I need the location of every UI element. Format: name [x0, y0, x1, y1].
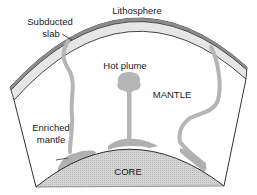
hot-plume-label: Hot plume: [103, 60, 146, 71]
earth-cross-section-diagram: Lithosphere Subducted slab Hot plume MAN…: [0, 0, 257, 195]
core-label: CORE: [114, 166, 141, 177]
right-wall-line: [224, 79, 246, 186]
lithosphere-label: Lithosphere: [112, 5, 162, 16]
subducted-slab-right: [179, 47, 219, 164]
left-wall-line: [14, 100, 36, 187]
subducted-slab-label-line2: slab: [42, 28, 59, 39]
mantle-label: MANTLE: [153, 89, 192, 100]
subducted-slab-label-line1: Subducted: [27, 16, 72, 27]
enriched-mantle-label-line1: Enriched: [32, 122, 70, 133]
hot-plume: [117, 72, 140, 142]
enriched-mantle-label-line2: mantle: [37, 134, 66, 145]
